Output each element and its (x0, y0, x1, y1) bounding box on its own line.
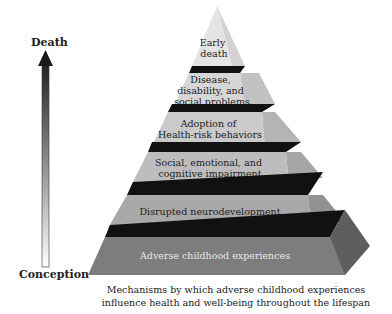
layer-label: Disrupted neurodevelopment (139, 206, 280, 217)
separator-bar (148, 142, 301, 152)
layer-label: Early death (200, 37, 229, 59)
caption-line-1: Mechanisms by which adverse childhood ex… (80, 283, 392, 296)
caption-line-2: influence health and well-being througho… (80, 296, 392, 309)
separator-bar (189, 66, 245, 73)
layer-label: Adverse childhood experiences (139, 250, 290, 261)
pyramid-diagram: Early death Disease, disability, and soc… (0, 0, 392, 314)
layer-label: Social, emotional, and cognitive impairm… (155, 157, 265, 179)
separator-bar (168, 104, 275, 112)
pyramid-layer-early-death: Early death (192, 6, 245, 66)
figure-caption: Mechanisms by which adverse childhood ex… (80, 283, 392, 309)
